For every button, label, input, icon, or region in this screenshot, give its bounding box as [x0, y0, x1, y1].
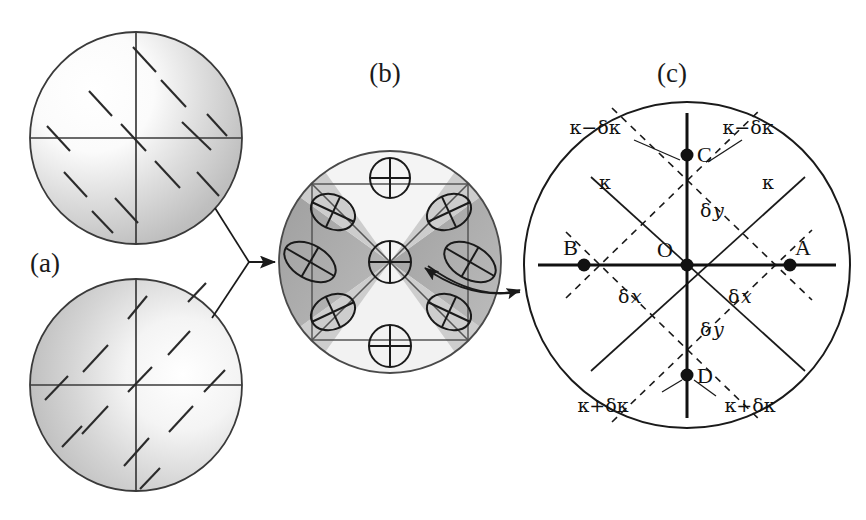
panel-a-top-circle — [30, 32, 242, 244]
figure-canvas: (a) — [0, 0, 866, 520]
panel-b: (b) — [277, 58, 502, 373]
svg-text:δ: δ — [618, 285, 629, 307]
panel-c-label: (c) — [657, 58, 687, 88]
panel-a: (a) — [30, 32, 275, 491]
point-O — [681, 259, 694, 272]
point-label-A: A — [795, 235, 811, 260]
label-kappa-minus-right: κ−δκ — [722, 116, 773, 138]
point-A — [784, 259, 797, 272]
label-kappa-minus-left: κ−δκ — [569, 116, 620, 138]
crossed-circle — [369, 325, 411, 367]
panel-a-bottom-circle — [30, 279, 242, 491]
point-B — [578, 259, 591, 272]
svg-text:δ: δ — [700, 199, 711, 221]
point-label-D: D — [697, 363, 713, 388]
svg-text:δ: δ — [728, 285, 739, 307]
point-label-B: B — [563, 235, 578, 260]
svg-text:y: y — [712, 318, 724, 340]
panel-b-label: (b) — [369, 58, 400, 88]
diagram-svg: (a) — [0, 0, 866, 520]
point-C — [681, 149, 694, 162]
svg-text:x: x — [741, 285, 752, 307]
crossed-circle — [370, 158, 410, 198]
panel-a-label: (a) — [30, 248, 60, 278]
label-kappa-left: κ — [599, 171, 611, 193]
connector-a-to-b — [212, 208, 275, 318]
label-kappa-plus-right: κ+δκ — [724, 394, 775, 416]
label-kappa-plus-left: κ+δκ — [577, 394, 628, 416]
point-D — [681, 369, 694, 382]
label-kappa-right: κ — [762, 171, 774, 193]
panel-c: O A B C D κ−δκ κ−δκ κ κ κ+δκ κ+δκ δ y δ … — [524, 58, 850, 428]
point-label-O: O — [657, 237, 673, 262]
svg-text:x: x — [631, 285, 642, 307]
svg-text:y: y — [712, 199, 724, 221]
svg-text:δ: δ — [700, 318, 711, 340]
point-label-C: C — [697, 142, 712, 167]
crossed-circle-center — [369, 241, 411, 283]
